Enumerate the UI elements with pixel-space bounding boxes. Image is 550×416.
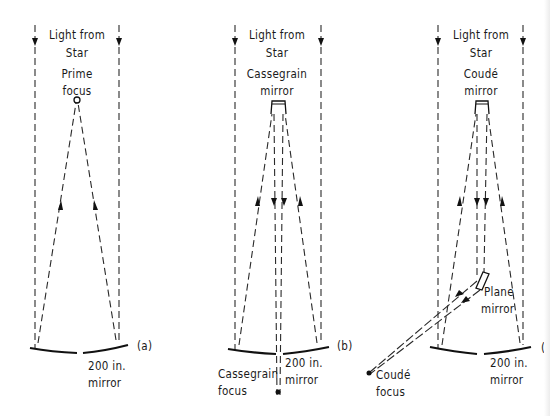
reflected-ray-right: [285, 114, 317, 343]
panel-prime-focus: Light from Star Prime focus (a) 200 in. …: [30, 25, 152, 390]
up-arrow-icon: [500, 196, 505, 206]
page-edge-shadow: [544, 0, 550, 416]
mirror-label-2: mirror: [285, 373, 319, 387]
down-arrow-icon: [435, 38, 441, 46]
down-arrow-icon: [32, 38, 38, 46]
telescope-focus-diagram: Light from Star Prime focus (a) 200 in. …: [0, 0, 550, 416]
coude-beam-lower: [370, 290, 480, 374]
cassegrain-secondary-mirror: [271, 101, 286, 114]
panel-coude-focus: Light from Star Coudé mirror Plane mirro…: [367, 25, 550, 399]
up-arrow-icon: [93, 200, 98, 210]
down-arrow-icon: [271, 198, 277, 206]
cassegrain-mirror-label-2: mirror: [260, 84, 294, 98]
down-left-arrow-icon: [461, 296, 470, 303]
prime-focus-label: Prime: [61, 67, 92, 81]
down-arrow-icon: [474, 198, 480, 206]
panel-tag: (a): [137, 339, 152, 353]
cassegrain-focus-label: Cassegrain: [218, 367, 278, 381]
mirror-label: 200 in.: [490, 356, 528, 370]
incoming-light-label-2: Star: [266, 46, 289, 60]
down-arrow-icon: [232, 38, 238, 46]
mirror-label: 200 in.: [88, 359, 126, 373]
mirror-label-2: mirror: [88, 376, 122, 390]
down-left-arrow-icon: [455, 290, 464, 297]
prime-focus-point: [74, 97, 80, 103]
cassegrain-mirror-label: Cassegrain: [247, 67, 307, 81]
reflected-ray-left: [38, 103, 76, 343]
cassegrain-focus-label-2: focus: [218, 384, 247, 398]
down-arrow-icon: [520, 38, 526, 46]
primary-mirror-right: [484, 347, 531, 354]
primary-mirror-right: [283, 347, 329, 354]
coude-secondary-mirror: [475, 101, 489, 114]
mirror-label: 200 in.: [285, 356, 323, 370]
primary-mirror-left: [30, 348, 77, 353]
up-arrow-icon: [457, 196, 462, 206]
reflected-ray-right: [78, 103, 116, 340]
panel-cassegrain-focus: Light from Star Cassegrain mirror (b) 20…: [218, 25, 353, 398]
down-arrow-icon: [318, 38, 324, 46]
coude-mirror-label-2: mirror: [464, 84, 498, 98]
incoming-light-label-2: Star: [470, 46, 493, 60]
coude-ray-right: [484, 114, 487, 272]
panel-tag: (b): [337, 339, 353, 353]
incoming-light-label: Light from: [249, 28, 305, 42]
prime-focus-label-2: focus: [62, 84, 91, 98]
mirror-label-2: mirror: [490, 373, 524, 387]
coude-focus-label-2: focus: [376, 385, 405, 399]
plane-mirror-label: Plane: [484, 285, 514, 299]
reflected-ray-left: [442, 114, 476, 345]
coude-focus-label: Coudé: [376, 368, 411, 382]
up-arrow-icon: [298, 196, 303, 206]
coude-mirror-label: Coudé: [464, 67, 499, 81]
plane-mirror-label-2: mirror: [481, 302, 515, 316]
reflected-ray-left: [239, 114, 272, 345]
incoming-light-label-2: Star: [66, 46, 89, 60]
down-arrow-icon: [116, 38, 122, 46]
primary-mirror-right: [83, 345, 128, 353]
incoming-light-label: Light from: [49, 28, 105, 42]
coude-focus-point: [367, 371, 372, 376]
incoming-light-label: Light from: [453, 28, 509, 42]
primary-mirror-left: [228, 349, 276, 354]
cassegrain-ray-right: [280, 114, 283, 395]
cassegrain-focus-point: [276, 390, 281, 395]
down-arrow-icon: [483, 198, 489, 206]
primary-mirror-left: [430, 347, 477, 354]
